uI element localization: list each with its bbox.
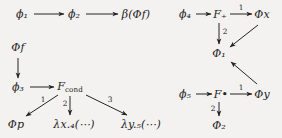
node-fcond: Fcond <box>57 81 83 93</box>
edge-label-left-3: 3 <box>108 96 113 103</box>
node-f-dot-label: F• <box>214 88 228 101</box>
node-phi5-label: ϕ₅ <box>179 88 191 101</box>
edge-label-left-1: 1 <box>41 96 46 103</box>
node-beta-phif: β(Φf) <box>122 9 151 20</box>
node-lambda-y: λy.₅(⋯) <box>121 119 161 130</box>
node-phi1-label: ϕ₁ <box>16 8 28 21</box>
term-reduction-diagram: ϕ₁ ϕ₂ β(Φf) Φf ϕ₃ Fcond Φp λx.₄(⋯) λy.₅(… <box>0 0 282 138</box>
node-phi-2: Φ₂ <box>212 120 226 131</box>
node-phi-x-label: Φx <box>254 8 269 21</box>
node-phi2: ϕ₂ <box>68 9 80 20</box>
node-f-dot: F• <box>214 89 228 100</box>
node-fcond-subscript: cond <box>65 85 83 94</box>
edge-label-left-2: 2 <box>63 100 68 107</box>
node-phip: Φp <box>8 119 24 130</box>
node-phi3-label: ϕ₃ <box>12 81 24 94</box>
node-f-plus: F₊ <box>213 9 227 20</box>
node-phif-label: Φf <box>11 41 24 54</box>
node-phi2-label: ϕ₂ <box>68 8 80 21</box>
node-phi-1-label: Φ₁ <box>212 47 226 60</box>
node-phi-1: Φ₁ <box>212 48 226 59</box>
edge-label-right-top-2: 2 <box>223 28 228 35</box>
node-phi-x: Φx <box>254 9 269 20</box>
node-phi1: ϕ₁ <box>16 9 28 20</box>
node-phi-2-label: Φ₂ <box>212 119 226 132</box>
node-phif: Φf <box>11 42 24 53</box>
edge-fcond-lambday <box>86 95 127 115</box>
node-lambda-y-label: λy.₅(⋯) <box>121 118 161 131</box>
edge-phiy-phi1 <box>231 62 257 84</box>
edge-label-right-top-1: 1 <box>239 4 244 11</box>
node-phi-y-label: Φy <box>254 88 269 101</box>
node-lambda-x: λx.₄(⋯) <box>53 119 94 130</box>
node-phi-y: Φy <box>254 89 269 100</box>
node-phi4: ϕ₄ <box>179 9 191 20</box>
edge-phix-phi1 <box>230 25 258 47</box>
node-phi4-label: ϕ₄ <box>179 8 191 21</box>
node-phip-label: Φp <box>8 118 24 131</box>
edge-label-right-bot-1: 1 <box>239 84 244 91</box>
node-phi5: ϕ₅ <box>179 89 191 100</box>
node-beta-phif-label: β(Φf) <box>122 8 151 21</box>
node-fcond-label: Fcond <box>57 80 83 93</box>
edge-label-right-bot-2: 2 <box>211 105 216 112</box>
node-phi3: ϕ₃ <box>12 82 24 93</box>
node-lambda-x-label: λx.₄(⋯) <box>53 118 94 131</box>
node-f-plus-label: F₊ <box>213 8 227 21</box>
